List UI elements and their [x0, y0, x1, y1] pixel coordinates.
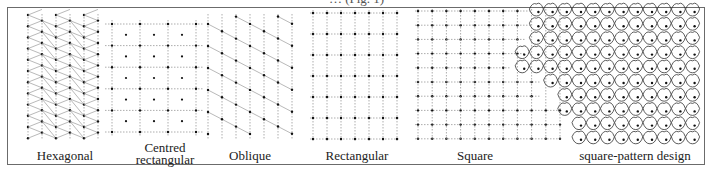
label-square-pattern-design: square-pattern design — [575, 149, 695, 162]
label-square: Square — [445, 149, 505, 162]
lattice-diagrams — [0, 0, 713, 172]
label-centred-rectangular-line2: rectangular — [125, 153, 205, 166]
label-hexagonal: Hexagonal — [35, 149, 95, 162]
label-oblique: Oblique — [220, 149, 280, 162]
label-rectangular: Rectangular — [322, 149, 392, 162]
